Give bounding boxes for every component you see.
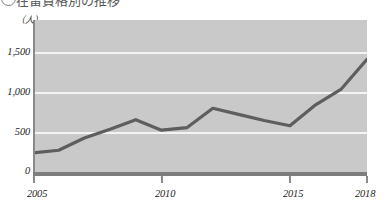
y-tick-label: 0	[0, 165, 30, 176]
x-tick-mark	[33, 176, 35, 183]
x-axis	[33, 172, 367, 176]
chart-figure: 在留資格別の推移 （人） 1,500 1,000 500 0 2005 2010…	[0, 0, 383, 212]
plot-area	[33, 20, 367, 173]
x-tick-mark	[161, 176, 163, 183]
series-line	[33, 20, 367, 173]
y-tick-label: 500	[0, 126, 30, 137]
y-tick-label: 1,500	[0, 46, 30, 57]
y-tick-label: 1,000	[0, 86, 30, 97]
x-tick-mark	[366, 176, 368, 183]
figure-heading-text: 在留資格別の推移	[16, 0, 120, 9]
x-tick-label: 2005	[27, 188, 47, 199]
x-tick-label: 2018	[355, 188, 375, 199]
x-tick-mark	[289, 176, 291, 183]
x-tick-label: 2010	[155, 188, 175, 199]
y-axis	[33, 20, 35, 176]
y-axis-tick-labels: 1,500 1,000 500 0	[0, 0, 30, 212]
x-tick-label: 2015	[283, 188, 303, 199]
figure-heading: 在留資格別の推移	[0, 0, 383, 12]
